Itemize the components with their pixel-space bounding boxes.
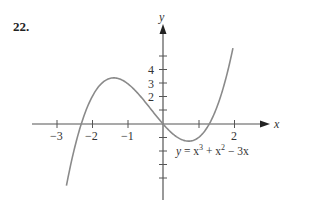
x-tick-label-neg1: −1 <box>121 129 134 143</box>
x-tick-label-neg2: −2 <box>85 129 98 143</box>
y-tick-label-4: 4 <box>148 63 154 77</box>
equation-label: y = x3 + x2 − 3x <box>175 143 249 158</box>
x-tick-label-neg3: −3 <box>50 129 63 143</box>
y-tick-label-3: 3 <box>148 77 154 91</box>
x-tick-label-2: 2 <box>231 129 237 143</box>
y-axis-arrow-icon <box>160 24 167 34</box>
x-axis-label: x <box>273 117 280 131</box>
x-axis-arrow-icon <box>260 121 270 128</box>
y-tick-label-2: 2 <box>148 90 154 104</box>
cubic-function-graph: x y −3 −2 −1 2 4 3 2 y = x3 + x2 − 3x <box>0 0 326 204</box>
y-axis-label: y <box>158 10 165 24</box>
